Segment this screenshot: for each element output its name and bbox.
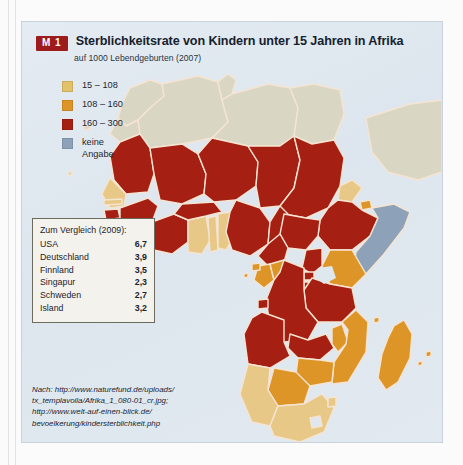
comparison-value: 3,9	[135, 251, 147, 264]
island-cape-verde	[68, 171, 72, 176]
comparison-row: Deutschland 3,9	[40, 251, 147, 264]
island-comoros	[374, 317, 379, 323]
country-gambia	[104, 199, 122, 205]
comparison-value: 2,3	[135, 276, 147, 289]
source-line-3: http://www.welt-auf-einen-blick.de/	[32, 406, 247, 417]
country-togo	[208, 216, 218, 252]
legend-swatch-mid	[62, 100, 73, 111]
comparison-country: Deutschland	[40, 251, 89, 264]
scan-edge-line-left	[8, 0, 9, 465]
page-title: Sterblichkeitsrate von Kindern unter 15 …	[76, 34, 404, 48]
country-egypt	[290, 84, 344, 144]
source-citation: Nach: http://www.naturefund.de/uploads/ …	[32, 384, 247, 429]
figure-root: M 1 Sterblichkeitsrate von Kindern unter…	[0, 0, 463, 465]
country-equatorial-guinea	[252, 263, 260, 271]
country-ghana	[188, 216, 210, 254]
country-angola	[244, 312, 290, 368]
comparison-country: Singapur	[40, 276, 75, 289]
country-zambia	[288, 334, 334, 360]
legend-item-high: 160 – 300	[62, 118, 123, 130]
legend-swatch-low	[62, 81, 73, 92]
country-mali	[150, 144, 206, 204]
comparison-row: Schweden 2,7	[40, 289, 147, 302]
comparison-row: Island 3,2	[40, 302, 147, 315]
figure-subtitle: auf 1000 Lebendgeburten (2007)	[74, 53, 431, 63]
legend-label-high: 160 – 300	[82, 118, 123, 130]
map-legend: 15 – 108 108 – 160 160 – 300 keine Angab…	[62, 80, 123, 167]
country-djibouti	[360, 200, 372, 210]
material-badge: M 1	[36, 36, 68, 51]
map-figure-panel: M 1 Sterblichkeitsrate von Kindern unter…	[22, 22, 442, 442]
island-mauritius	[426, 351, 431, 357]
island-reunion	[418, 361, 422, 366]
comparison-heading: Zum Vergleich (2009):	[40, 225, 147, 235]
figure-header: M 1 Sterblichkeitsrate von Kindern unter…	[36, 34, 431, 63]
comparison-country: Schweden	[40, 289, 81, 302]
country-cabinda	[258, 299, 268, 309]
source-line-2: tx_templavoila/Afrika_1_080-01_cr.jpg;	[32, 395, 247, 406]
source-line-4: bevoelkerung/kindersterblichkeit.php	[32, 418, 247, 429]
source-line-1: Nach: http://www.naturefund.de/uploads/	[32, 384, 247, 395]
legend-item-nodata: keine Angabe	[62, 137, 123, 160]
legend-swatch-nodata	[62, 138, 73, 149]
region-arabian-peninsula	[366, 100, 442, 180]
comparison-country: Finnland	[40, 264, 74, 277]
comparison-value: 2,7	[135, 289, 147, 302]
comparison-row: USA 6,7	[40, 238, 147, 251]
legend-item-low: 15 – 108	[62, 80, 123, 92]
legend-label-low: 15 – 108	[82, 80, 118, 92]
island-sao-tome	[244, 273, 248, 278]
comparison-value: 3,2	[135, 302, 147, 315]
comparison-country: USA	[40, 238, 58, 251]
country-eritrea	[338, 180, 362, 202]
comparison-country: Island	[40, 302, 63, 315]
comparison-value: 6,7	[135, 238, 147, 251]
legend-swatch-high	[62, 119, 73, 130]
country-swaziland	[328, 397, 336, 407]
comparison-value: 3,5	[135, 264, 147, 277]
country-lesotho	[310, 416, 322, 428]
comparison-box: Zum Vergleich (2009): USA 6,7 Deutschlan…	[32, 218, 155, 323]
country-madagascar	[378, 320, 412, 390]
legend-item-mid: 108 – 160	[62, 99, 123, 111]
comparison-row: Finnland 3,5	[40, 264, 147, 277]
country-nigeria	[226, 200, 270, 256]
scan-edge-line-inner	[15, 0, 16, 465]
legend-label-nodata: keine Angabe	[82, 137, 114, 160]
legend-label-mid: 108 – 160	[82, 99, 123, 111]
comparison-row: Singapur 2,3	[40, 276, 147, 289]
